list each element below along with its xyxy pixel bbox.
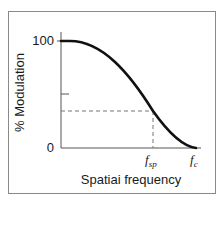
x-tick-label-fsp: fsp — [145, 152, 157, 169]
mtf-curve — [61, 41, 196, 148]
y-tick-label-100: 100 — [24, 33, 54, 48]
y-tick-label-0: 0 — [24, 140, 54, 155]
y-axis-label: % Modulation — [12, 38, 27, 148]
fsp-sub: sp — [149, 159, 157, 169]
x-axis-label: Spatiai frequency — [61, 172, 201, 187]
fc-sub: c — [194, 159, 198, 169]
x-tick-label-fc: fc — [190, 152, 198, 169]
